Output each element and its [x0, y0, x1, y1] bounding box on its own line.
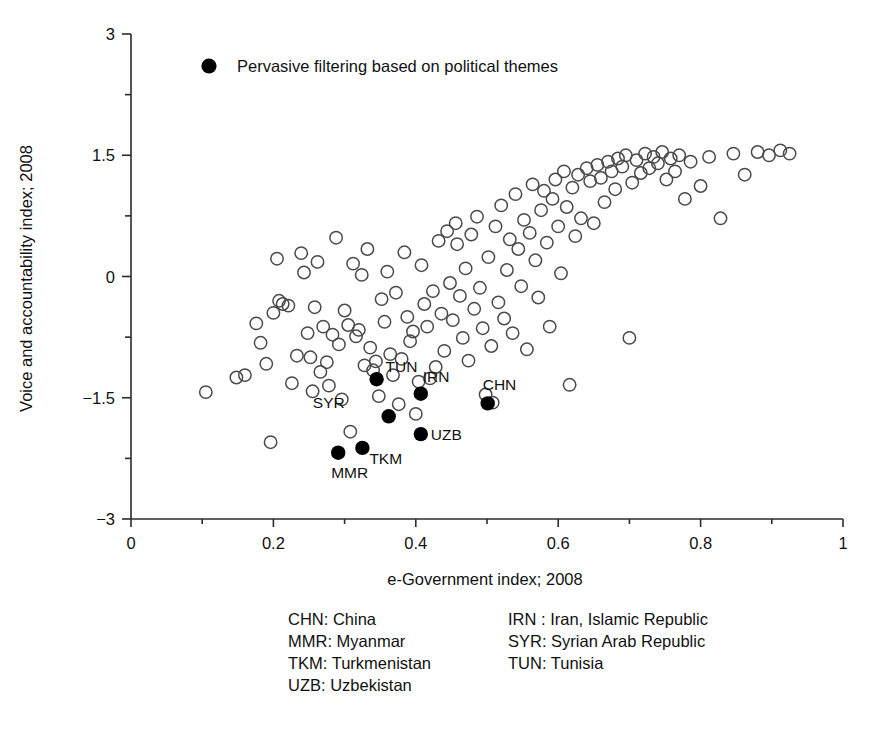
caption-line: TUN: Tunisia [508, 652, 708, 674]
data-point-open [526, 178, 538, 190]
data-point-open [471, 211, 483, 223]
data-point-open [501, 264, 513, 276]
data-point-open [410, 408, 422, 420]
data-point-open [498, 312, 510, 324]
data-point-open [361, 243, 373, 255]
data-point-open [679, 193, 691, 205]
data-point-open [200, 386, 212, 398]
data-point-open [623, 332, 635, 344]
data-point-open [271, 253, 283, 265]
axes: 00.20.40.60.81−3−1.501.53 [82, 25, 847, 552]
data-point-open [344, 426, 356, 438]
data-point-open [454, 290, 466, 302]
data-point-open [459, 262, 471, 274]
data-point-open [492, 296, 504, 308]
data-point-open [301, 327, 313, 339]
legend-label: Pervasive filtering based on political t… [237, 57, 558, 75]
data-point-open [512, 243, 524, 255]
label-tun: TUN [386, 358, 418, 375]
label-chn: CHN [483, 376, 517, 393]
caption-line: UZB: Uzbekistan [288, 674, 484, 696]
caption-column-2: IRN : Iran, Islamic RepublicSYR: Syrian … [508, 608, 708, 696]
data-point-open [321, 356, 333, 368]
label-mmr: MMR [331, 464, 368, 481]
data-point-open [401, 311, 413, 323]
data-point-open [447, 314, 459, 326]
data-point-open [465, 228, 477, 240]
data-point-open [468, 303, 480, 315]
data-point-open [427, 285, 439, 297]
data-point-open [529, 254, 541, 266]
data-point-open [639, 147, 651, 159]
data-point-open [763, 149, 775, 161]
x-tick-label: 0 [126, 534, 135, 552]
abbreviation-caption: CHN: ChinaMMR: MyanmarTKM: TurkmenistanU… [288, 608, 708, 696]
data-point-mmr [331, 446, 345, 460]
data-point-open [474, 282, 486, 294]
label-tkm: TKM [369, 450, 402, 467]
data-point-open [751, 146, 763, 158]
data-point-open [444, 277, 456, 289]
x-tick-label: 0.8 [689, 534, 712, 552]
y-tick-label: 1.5 [92, 146, 115, 164]
data-point-open [588, 217, 600, 229]
data-point-open [558, 165, 570, 177]
data-point-open [546, 193, 558, 205]
data-point-open [566, 181, 578, 193]
data-point-open [609, 183, 621, 195]
data-point-open [544, 320, 556, 332]
x-tick-label: 0.4 [404, 534, 427, 552]
data-point-open [532, 291, 544, 303]
x-tick-label: 0.2 [262, 534, 285, 552]
scatter-plot-figure: 00.20.40.60.81−3−1.501.53 TUNIRNCHNSYRUZ… [0, 0, 878, 737]
data-point-open [495, 199, 507, 211]
caption-line: IRN : Iran, Islamic Republic [508, 608, 708, 630]
data-point-tkm [355, 441, 369, 455]
data-point-open [462, 354, 474, 366]
data-point-open [323, 379, 335, 391]
data-point-open [393, 398, 405, 410]
data-point-open [694, 180, 706, 192]
caption-line: CHN: China [288, 608, 484, 630]
data-point-open [295, 247, 307, 259]
data-point-open [333, 338, 345, 350]
data-point-open [421, 320, 433, 332]
data-point-open [304, 351, 316, 363]
data-point-open [398, 246, 410, 258]
data-point-open [356, 269, 368, 281]
data-point-open [291, 350, 303, 362]
data-point-open [518, 214, 530, 226]
data-point-open [375, 293, 387, 305]
y-tick-label: −3 [96, 510, 115, 528]
data-point-open [485, 340, 497, 352]
caption-line: MMR: Myanmar [288, 630, 484, 652]
data-point-open [521, 343, 533, 355]
data-point-open [714, 212, 726, 224]
x-tick-label: 0.6 [547, 534, 570, 552]
data-point-open [373, 390, 385, 402]
data-point-open [489, 220, 501, 232]
data-point-open [684, 156, 696, 168]
y-tick-label: 0 [106, 268, 115, 286]
data-point-open [630, 154, 642, 166]
data-point-open [286, 377, 298, 389]
data-point-open [569, 230, 581, 242]
data-point-open [482, 251, 494, 263]
data-point-syr [382, 409, 396, 423]
data-point-open [418, 298, 430, 310]
data-point-tun [369, 372, 383, 386]
y-axis-title: Voice and accountability index; 2008 [17, 145, 35, 412]
data-point-open [739, 169, 751, 181]
caption-line: SYR: Syrian Arab Republic [508, 630, 708, 652]
data-point-open [264, 436, 276, 448]
data-point-open [330, 232, 342, 244]
open-circle-points [200, 144, 796, 448]
data-point-open [665, 152, 677, 164]
data-point-open [347, 257, 359, 269]
data-point-open [450, 217, 462, 229]
data-point-open [378, 316, 390, 328]
data-point-open [381, 265, 393, 277]
caption-column-1: CHN: ChinaMMR: MyanmarTKM: TurkmenistanU… [288, 608, 484, 696]
data-point-open [703, 151, 715, 163]
data-point-open [338, 304, 350, 316]
